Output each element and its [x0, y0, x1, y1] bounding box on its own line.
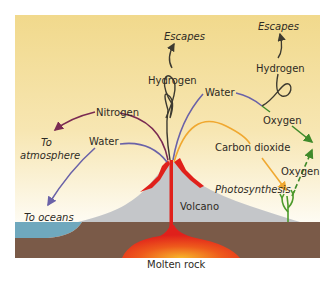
label-water-left: Water [89, 136, 119, 147]
label-escapes-left: Escapes [164, 31, 205, 42]
label-molten-rock: Molten rock [147, 259, 206, 270]
magma-conduit [170, 160, 174, 230]
label-water-top: Water [205, 87, 235, 98]
label-atmosphere: atmosphere [20, 150, 80, 161]
label-hydrogen-left: Hydrogen [148, 75, 197, 86]
label-oxygen-bottom: Oxygen [281, 166, 320, 177]
label-oxygen-top: Oxygen [263, 115, 302, 126]
volcanic-gases-diagram: Escapes Escapes Hydrogen Hydrogen Water … [0, 0, 333, 284]
label-nitrogen: Nitrogen [96, 107, 139, 118]
label-volcano: Volcano [180, 201, 219, 212]
label-hydrogen-right: Hydrogen [256, 63, 305, 74]
label-escapes-right: Escapes [258, 21, 299, 32]
label-carbon-dioxide: Carbon dioxide [215, 142, 290, 153]
label-to-oceans: To oceans [24, 212, 74, 223]
label-photosynthesis: Photosynthesis [215, 184, 291, 195]
label-to: To [41, 137, 52, 148]
